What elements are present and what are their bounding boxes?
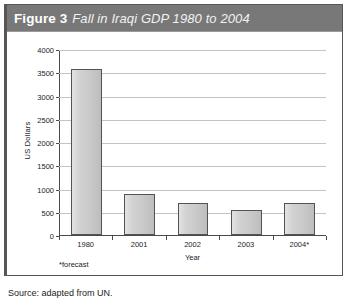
bar-2001 (124, 194, 155, 235)
y-tick-mark (56, 213, 59, 214)
y-tick-mark (56, 143, 59, 144)
x-axis-title: Year (59, 253, 326, 262)
y-tick-mark (56, 120, 59, 121)
bar-slot (220, 50, 273, 235)
bar-slot (273, 50, 326, 235)
y-tick-mark (56, 166, 59, 167)
source-note: Source: adapted from UN. (8, 288, 113, 298)
bar-series (60, 50, 326, 235)
chart-area: US Dollars 05001000150020002500300035004… (7, 32, 342, 277)
y-tick-mark (56, 97, 59, 98)
y-tick-label: 0 (50, 232, 54, 241)
forecast-footnote: *forecast (59, 260, 89, 269)
y-tick-label: 1000 (37, 185, 54, 194)
x-axis-labels: 19802001200220032004* (59, 240, 326, 249)
x-tick-label: 2002 (166, 240, 219, 249)
y-tick-label: 3500 (37, 69, 54, 78)
figure-box: Figure 3 Fall in Iraqi GDP 1980 to 2004 … (4, 4, 343, 276)
bar-slot (166, 50, 219, 235)
x-tick-mark (326, 236, 327, 240)
y-tick-mark (56, 190, 59, 191)
bar-2003 (231, 210, 262, 235)
x-tick-label: 2004* (273, 240, 326, 249)
x-tick-label: 2001 (112, 240, 165, 249)
bar-slot (113, 50, 166, 235)
plot-area: 05001000150020002500300035004000 (59, 50, 326, 236)
bar-1980 (71, 69, 102, 235)
figure-number-label: Figure 3 (14, 11, 67, 26)
y-tick-label: 500 (41, 208, 54, 217)
y-tick-label: 3000 (37, 92, 54, 101)
y-tick-label: 2500 (37, 115, 54, 124)
y-tick-label: 2000 (37, 139, 54, 148)
y-tick-mark (56, 50, 59, 51)
bar-2004 (284, 203, 315, 235)
bar-2002 (178, 203, 209, 235)
bar-slot (60, 50, 113, 235)
y-axis-title: US Dollars (23, 91, 32, 191)
figure-caption-label: Fall in Iraqi GDP 1980 to 2004 (72, 11, 249, 26)
y-tick-label: 1500 (37, 162, 54, 171)
y-tick-mark (56, 73, 59, 74)
x-tick-label: 2003 (219, 240, 272, 249)
y-tick-label: 4000 (37, 46, 54, 55)
x-tick-label: 1980 (59, 240, 112, 249)
figure-title-bar: Figure 3 Fall in Iraqi GDP 1980 to 2004 (7, 5, 342, 32)
